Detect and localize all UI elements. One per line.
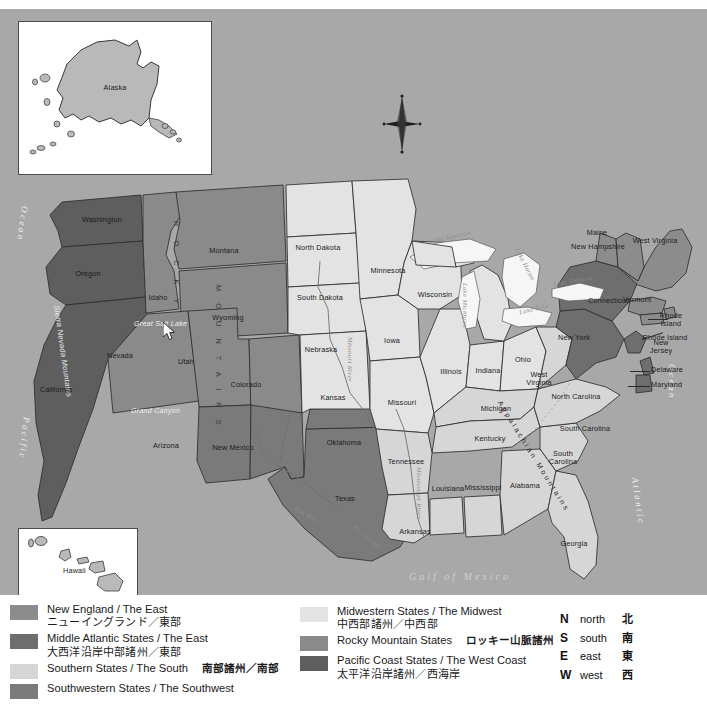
legend-jp-midwestern: 中西部諸州／中西部 <box>337 618 502 631</box>
compass-letter-w: W <box>560 668 580 682</box>
compass-jp-north: 北 <box>622 610 633 626</box>
legend-en-rocky-mountain: Rocky Mountain States <box>337 634 452 646</box>
compass-en-east: east <box>580 650 622 662</box>
leader-line-maryland <box>628 386 650 387</box>
compass-row-west: W west 西 <box>560 666 633 682</box>
top-white-strip <box>0 0 707 9</box>
legend-text-middle-atlantic: Middle Atlantic States / The East 大西洋沿岸中… <box>47 632 208 658</box>
legend-swatch-middle-atlantic <box>10 634 38 649</box>
compass-en-west: west <box>580 669 622 681</box>
legend-column-left: New England / The East ニューイングランド／東部 Midd… <box>10 603 310 702</box>
legend-text-pacific-coast: Pacific Coast States / The West Coast 太平… <box>337 654 526 680</box>
legend-en-pacific-coast: Pacific Coast States / The West Coast <box>337 654 526 667</box>
legend-jp-pacific-coast: 太平洋沿岸諸州／西海岸 <box>337 668 526 681</box>
compass-en-south: south <box>580 632 622 644</box>
legend-text-southern: Southern States / The South南部諸州／南部 <box>47 662 279 675</box>
hawaii-inset[interactable]: Hawaii <box>18 528 138 595</box>
legend-item-new-england[interactable]: New England / The East ニューイングランド／東部 <box>10 603 310 629</box>
legend-item-middle-atlantic[interactable]: Middle Atlantic States / The East 大西洋沿岸中… <box>10 632 310 658</box>
compass-letter-e: E <box>560 649 580 663</box>
compass-jp-east: 東 <box>622 647 633 663</box>
legend-jp-rocky-mountain: ロッキー山脈諸州 <box>466 634 554 646</box>
legend-text-midwestern: Midwestern States / The Midwest 中西部諸州／中西… <box>337 605 502 631</box>
mouse-pointer <box>163 322 175 341</box>
legend-item-southwestern[interactable]: Southwestern States / The Southwest <box>10 682 310 699</box>
legend-swatch-midwestern <box>300 607 328 622</box>
legend-jp-middle-atlantic: 大西洋沿岸中部諸州／東部 <box>47 646 208 659</box>
map-legend: New England / The East ニューイングランド／東部 Midd… <box>0 595 707 706</box>
legend-jp-southern: 南部諸州／南部 <box>202 662 279 674</box>
legend-en-middle-atlantic: Middle Atlantic States / The East <box>47 632 208 645</box>
legend-text-new-england: New England / The East ニューイングランド／東部 <box>47 603 181 629</box>
legend-jp-new-england: ニューイングランド／東部 <box>47 616 181 629</box>
alaska-inset[interactable]: Alaska <box>18 21 212 175</box>
compass-row-north: N north 北 <box>560 610 633 626</box>
leader-line-delaware <box>630 371 650 372</box>
compass-letter-s: S <box>560 631 580 645</box>
map-page: .st{stroke:#2e2e2e;stroke-width:.85;stro… <box>0 0 707 706</box>
compass-rose-icon <box>382 93 422 155</box>
alaska-shape <box>19 22 209 172</box>
leader-line-rhode-island <box>648 319 668 320</box>
legend-swatch-rocky-mountain <box>300 636 328 651</box>
legend-swatch-new-england <box>10 605 38 620</box>
legend-swatch-pacific-coast <box>300 656 328 671</box>
legend-en-midwestern: Midwestern States / The Midwest <box>337 605 502 618</box>
us-regions-map[interactable]: .st{stroke:#2e2e2e;stroke-width:.85;stro… <box>0 9 707 595</box>
legend-item-southern[interactable]: Southern States / The South南部諸州／南部 <box>10 662 310 679</box>
legend-en-new-england: New England / The East <box>47 603 181 616</box>
legend-en-southern: Southern States / The South <box>47 662 188 674</box>
legend-text-southwestern: Southwestern States / The Southwest <box>47 682 234 695</box>
legend-en-southwestern: Southwestern States / The Southwest <box>47 682 234 695</box>
legend-text-rocky-mountain: Rocky Mountain Statesロッキー山脈諸州 <box>337 634 554 647</box>
compass-en-north: north <box>580 613 622 625</box>
hawaii-shape <box>19 529 135 595</box>
compass-letter-n: N <box>560 612 580 626</box>
compass-direction-legend: N north 北 S south 南 E east 東 W west 西 <box>560 610 633 684</box>
legend-swatch-southwestern <box>10 684 38 699</box>
compass-jp-west: 西 <box>622 666 633 682</box>
legend-swatch-southern <box>10 664 38 679</box>
compass-jp-south: 南 <box>622 629 633 645</box>
compass-row-east: E east 東 <box>560 647 633 663</box>
compass-row-south: S south 南 <box>560 629 633 645</box>
